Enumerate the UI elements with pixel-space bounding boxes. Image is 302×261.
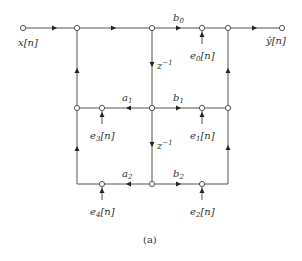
node: [149, 181, 154, 186]
arrow-right-icon: [111, 26, 116, 31]
arrow-up-icon: [75, 68, 80, 73]
delay-label-2: z−1: [156, 139, 173, 151]
arrow-left-icon: [126, 106, 131, 111]
arrow-down-icon: [150, 62, 155, 67]
node: [225, 25, 230, 30]
error-label-e0: e0[n]: [190, 50, 215, 63]
coef-b1: b1: [173, 92, 184, 105]
input-label: x[n]: [18, 37, 38, 48]
coef-a1: a1: [122, 92, 132, 105]
error-label-e1: e1[n]: [190, 130, 215, 143]
arrow-right-icon: [252, 26, 257, 31]
node: [149, 105, 154, 110]
arrow-up-icon: [226, 145, 231, 150]
node: [199, 25, 204, 30]
node: [99, 105, 104, 110]
arrow-up-icon: [226, 68, 231, 73]
arrow-right-icon: [176, 106, 181, 111]
arrow-up-icon: [200, 188, 205, 193]
arrow-up-icon: [75, 146, 80, 151]
output-node: [279, 25, 284, 30]
coef-b0: b0: [173, 12, 184, 25]
output-label: ŷ[n]: [265, 35, 286, 46]
node: [74, 25, 79, 30]
node: [99, 181, 104, 186]
signal-flow-diagram: x[n] ŷ[n] b0 b1 b2 a1 a2 z−1 z−1 e0[n] e…: [0, 0, 302, 261]
figure-caption: (a): [143, 234, 157, 245]
error-label-e2: e2[n]: [190, 206, 215, 219]
node: [74, 105, 79, 110]
arrow-down-icon: [150, 142, 155, 147]
arrow-up-icon: [200, 32, 205, 37]
arrow-up-icon: [100, 188, 105, 193]
arrow-left-icon: [126, 182, 131, 187]
node: [199, 181, 204, 186]
node: [225, 105, 230, 110]
coef-a2: a2: [122, 168, 133, 181]
error-label-e3: e3[n]: [90, 130, 115, 143]
arrow-right-icon: [52, 26, 57, 31]
node: [149, 25, 154, 30]
arrow-right-icon: [176, 26, 181, 31]
coef-b2: b2: [173, 168, 184, 181]
input-node: [20, 25, 25, 30]
node: [199, 105, 204, 110]
error-label-e4: e4[n]: [90, 206, 115, 219]
arrow-right-icon: [176, 182, 181, 187]
arrow-up-icon: [200, 112, 205, 117]
arrow-up-icon: [100, 112, 105, 117]
delay-label-1: z−1: [156, 59, 173, 71]
